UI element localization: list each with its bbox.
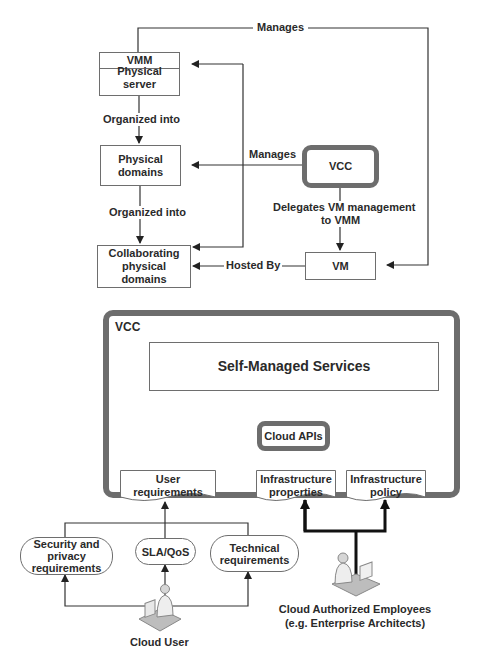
pill-line1: SLA/QoS (142, 546, 190, 558)
manages-top-label: Manages (253, 21, 308, 34)
employees-line2: (e.g. Enterprise Architects) (270, 616, 440, 630)
doc-line2: properties (256, 486, 336, 499)
delegates-line2: to VMM (273, 214, 408, 227)
doc-line2: policy (346, 486, 426, 499)
employees-label: Cloud Authorized Employees (e.g. Enterpr… (270, 602, 440, 630)
physical-server-label: Physical server (100, 69, 179, 87)
pill-line2: requirements (220, 554, 290, 566)
doc-line1: Infrastructure (256, 473, 336, 486)
cloud-apis-label: Cloud APIs (264, 430, 322, 443)
hosted-by-label: Hosted By (224, 259, 282, 272)
vcc-container-title: VCC (115, 320, 140, 334)
vm-label: VM (332, 260, 349, 273)
pill-line3: requirements (32, 562, 102, 574)
cloud-apis-box: Cloud APIs (257, 421, 330, 451)
self-managed-services-label: Self-Managed Services (218, 360, 371, 373)
delegates-line1: Delegates VM management (273, 201, 408, 214)
security-privacy-requirements-pill: Security and privacy requirements (20, 537, 113, 575)
vm-box: VM (305, 252, 376, 280)
vcc-box: VCC (302, 145, 379, 188)
pill-line1: Security and (33, 538, 99, 550)
technical-requirements-pill: Technical requirements (210, 535, 299, 572)
physical-domains-label: Physical domains (111, 153, 171, 179)
self-managed-services-box: Self-Managed Services (149, 342, 439, 391)
doc-user-requirements: User requirements (120, 470, 216, 504)
cloud-user-label: Cloud User (130, 636, 189, 649)
sla-qos-pill: SLA/QoS (135, 538, 196, 565)
vmm-physical-server-box: VMM Physical server (99, 52, 180, 96)
physical-domains-box: Physical domains (100, 145, 181, 186)
pill-line1: Technical (230, 542, 280, 554)
cloud-employee-icon (328, 548, 383, 598)
pill-line2: privacy (47, 550, 86, 562)
employees-line1: Cloud Authorized Employees (270, 602, 440, 616)
doc-infrastructure-properties: Infrastructure properties (256, 470, 336, 504)
delegates-label: Delegates VM management to VMM (273, 201, 408, 227)
collaborating-physical-domains-box: Collaborating physical domains (97, 245, 191, 288)
organized-into-label-1: Organized into (103, 113, 180, 126)
organized-into-label-2: Organized into (109, 206, 186, 219)
vcc-label: VCC (329, 160, 352, 173)
manages-vcc-label: Manages (249, 148, 296, 161)
doc-line1: User (120, 473, 216, 486)
doc-line1: Infrastructure (346, 473, 426, 486)
doc-infrastructure-policy: Infrastructure policy (346, 470, 426, 504)
doc-line2: requirements (120, 486, 216, 499)
cloud-user-icon (135, 583, 185, 633)
collaborating-domains-label: Collaborating physical domains (101, 247, 187, 286)
